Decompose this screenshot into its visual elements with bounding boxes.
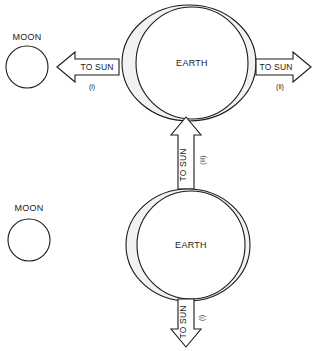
right-arrow: TO SUN (ii)	[256, 52, 311, 91]
bottom-scene: MOON EARTH TO SUN (i)	[8, 189, 250, 347]
left-arrow-roman: (i)	[89, 83, 95, 91]
down-arrow: TO SUN (i)	[171, 299, 206, 347]
top-scene: MOON EARTH TO SUN (i) TO SUN (ii)	[6, 5, 311, 121]
moon-circle	[6, 46, 48, 88]
right-arrow-roman: (ii)	[276, 83, 284, 91]
tidal-diagram-canvas: MOON EARTH TO SUN (i) TO SUN (ii)	[0, 0, 315, 351]
left-arrow: TO SUN (i)	[57, 52, 119, 91]
down-arrow-roman: (i)	[198, 315, 206, 321]
left-arrow-label: TO SUN	[80, 62, 113, 72]
up-arrow: TO SUN (iii)	[171, 117, 207, 189]
down-arrow-label: TO SUN	[178, 305, 188, 338]
earth-label: EARTH	[176, 58, 208, 68]
earth-label: EARTH	[175, 240, 207, 250]
moon-label: MOON	[12, 32, 41, 42]
bottom-moon: MOON	[8, 203, 50, 261]
top-moon: MOON	[6, 32, 48, 88]
up-arrow-label: TO SUN	[178, 148, 188, 181]
moon-label: MOON	[14, 203, 43, 213]
bottom-earth: EARTH	[126, 189, 250, 301]
top-earth: EARTH	[122, 5, 256, 121]
tidal-diagram: MOON EARTH TO SUN (i) TO SUN (ii)	[0, 0, 315, 351]
right-arrow-label: TO SUN	[259, 62, 292, 72]
up-arrow-roman: (iii)	[199, 155, 207, 164]
moon-circle	[8, 219, 50, 261]
